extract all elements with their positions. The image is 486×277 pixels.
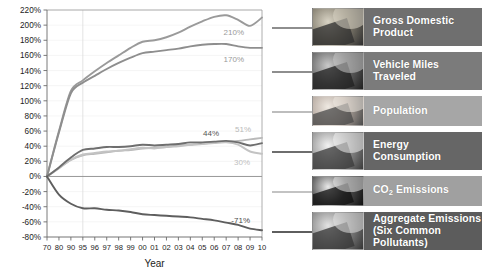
legend-label-co2-emissions: CO2 Emissions (364, 184, 449, 199)
ytick-label: -60% (22, 218, 41, 227)
xtick-label: 08 (234, 243, 242, 252)
data-label-gross-domestic-product: 210% (224, 28, 244, 37)
data-label-population: 51% (235, 125, 251, 134)
ytick-label: 20% (25, 157, 41, 166)
chart-svg: 220%200%180%160%140%120%100%80%60%40%20%… (0, 0, 272, 277)
ytick-label: 40% (25, 142, 41, 151)
x-axis-title: Year (144, 258, 165, 269)
smokestack-thumbnail-icon (312, 212, 364, 250)
ytick-label: 80% (25, 112, 41, 121)
ytick-label: 140% (20, 67, 41, 76)
xtick-label: 06 (210, 243, 218, 252)
xtick-label: 95 (79, 243, 87, 252)
legend-connector-gross-domestic-product (272, 27, 312, 29)
legend-connector-population (272, 111, 312, 113)
legend-item-co2-emissions[interactable]: CO2 Emissions (312, 176, 482, 206)
line-chart: 220%200%180%160%140%120%100%80%60%40%20%… (0, 0, 272, 277)
data-label-vehicle-miles-traveled: 170% (224, 55, 244, 64)
legend-label-aggregate-emissions: Aggregate Emissions (Six Common Pollutan… (364, 213, 482, 249)
ytick-label: -20% (22, 188, 41, 197)
xtick-label: 10 (258, 243, 266, 252)
xtick-label: 98 (114, 243, 122, 252)
data-label-energy-consumption: 44% (203, 129, 219, 138)
ytick-label: 200% (20, 21, 41, 30)
exhaust-thumbnail-icon (312, 176, 364, 206)
legend-connector-aggregate-emissions (272, 231, 312, 233)
xtick-label: 70 (43, 243, 51, 252)
legend-label-vehicle-miles-traveled: Vehicle Miles Traveled (364, 59, 439, 83)
xtick-label: 05 (198, 243, 206, 252)
xtick-label: 07 (222, 243, 230, 252)
chart-legend: Gross Domestic ProductVehicle Miles Trav… (272, 0, 486, 277)
ytick-label: 160% (20, 51, 41, 60)
ytick-label: -80% (22, 233, 41, 242)
xtick-label: 96 (91, 243, 99, 252)
data-label-aggregate-emissions-six-common-pollutants: -71% (231, 216, 250, 225)
legend-item-population[interactable]: Population (312, 96, 482, 126)
ytick-label: 100% (20, 97, 41, 106)
coins-thumbnail-icon (312, 8, 364, 46)
ytick-label: 0% (29, 172, 41, 181)
traffic-thumbnail-icon (312, 52, 364, 90)
xtick-label: 09 (246, 243, 254, 252)
xtick-label: 00 (138, 243, 146, 252)
xtick-label: 97 (102, 243, 110, 252)
plug-thumbnail-icon (312, 132, 364, 170)
xtick-label: 90 (67, 243, 75, 252)
legend-connector-vehicle-miles-traveled (272, 71, 312, 73)
ytick-label: -40% (22, 203, 41, 212)
ytick-label: 180% (20, 36, 41, 45)
legend-connector-energy-consumption (272, 151, 312, 153)
xtick-label: 80 (55, 243, 63, 252)
legend-label-energy-consumption: Energy Consumption (364, 139, 441, 163)
chart-page: 220%200%180%160%140%120%100%80%60%40%20%… (0, 0, 486, 277)
xtick-label: 04 (186, 243, 194, 252)
legend-label-gross-domestic-product: Gross Domestic Product (364, 15, 454, 39)
legend-item-vehicle-miles-traveled[interactable]: Vehicle Miles Traveled (312, 52, 482, 90)
legend-item-energy-consumption[interactable]: Energy Consumption (312, 132, 482, 170)
ytick-label: 220% (20, 6, 41, 15)
ytick-label: 120% (20, 82, 41, 91)
legend-item-aggregate-emissions[interactable]: Aggregate Emissions (Six Common Pollutan… (312, 212, 482, 250)
data-label-co2-emissions: 30% (234, 158, 250, 167)
legend-item-gross-domestic-product[interactable]: Gross Domestic Product (312, 8, 482, 46)
legend-connector-co2-emissions (272, 191, 312, 193)
legend-label-population: Population (364, 105, 428, 117)
xtick-label: 03 (174, 243, 182, 252)
xtick-label: 99 (126, 243, 134, 252)
baby-thumbnail-icon (312, 96, 364, 126)
xtick-label: 01 (150, 243, 158, 252)
xtick-label: 02 (162, 243, 170, 252)
ytick-label: 60% (25, 127, 41, 136)
